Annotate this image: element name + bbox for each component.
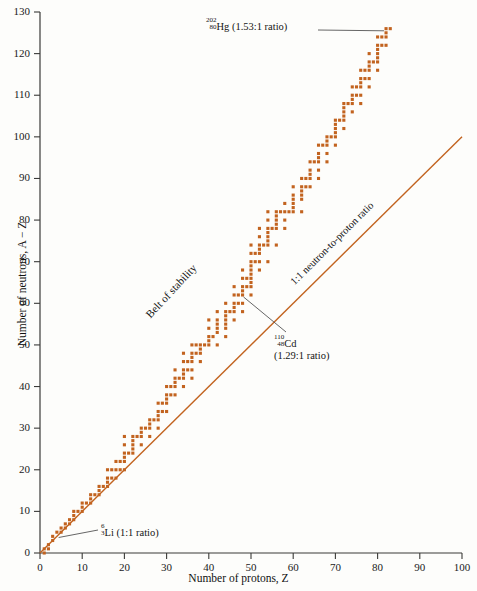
- data-point: [157, 402, 160, 405]
- data-point: [81, 506, 84, 509]
- data-point: [275, 223, 278, 226]
- data-point: [342, 114, 345, 117]
- data-point: [359, 102, 362, 105]
- data-point: [283, 210, 286, 213]
- hg-isotope-numbers: 202 80: [206, 17, 217, 31]
- data-point: [351, 102, 354, 105]
- data-point: [165, 402, 168, 405]
- data-point: [347, 102, 350, 105]
- data-point: [380, 44, 383, 47]
- data-point: [123, 452, 126, 455]
- data-point: [376, 56, 379, 59]
- data-point: [233, 293, 236, 296]
- data-point: [199, 343, 202, 346]
- data-point: [165, 397, 168, 400]
- data-point: [283, 227, 286, 230]
- annotation-cd110: 110 48 Cd (1.29:1 ratio): [274, 335, 329, 362]
- data-point: [190, 377, 193, 380]
- data-point: [93, 493, 96, 496]
- data-point: [233, 302, 236, 305]
- data-point: [372, 60, 375, 63]
- data-point: [313, 160, 316, 163]
- y-tick-label: 110: [4, 89, 30, 100]
- data-point: [355, 94, 358, 97]
- data-point: [165, 385, 168, 388]
- data-point: [309, 173, 312, 176]
- data-point: [249, 260, 252, 263]
- data-point: [173, 385, 176, 388]
- data-point: [131, 443, 134, 446]
- data-point: [216, 327, 219, 330]
- data-point: [300, 198, 303, 201]
- data-point: [114, 460, 117, 463]
- data-point: [342, 127, 345, 130]
- data-point: [43, 551, 46, 554]
- data-point: [110, 477, 113, 480]
- leader-line-cd110: [244, 297, 286, 332]
- data-point: [359, 81, 362, 84]
- data-point: [287, 210, 290, 213]
- data-point: [317, 169, 320, 172]
- data-point: [60, 526, 63, 529]
- data-point: [389, 27, 392, 30]
- data-point: [309, 169, 312, 172]
- x-axis-title: Number of protons, Z: [0, 572, 477, 584]
- data-point: [283, 219, 286, 222]
- data-point: [72, 518, 75, 521]
- data-point: [368, 52, 371, 55]
- data-point: [376, 69, 379, 72]
- data-point: [300, 189, 303, 192]
- data-point: [317, 156, 320, 159]
- data-point: [157, 427, 160, 430]
- data-point: [351, 85, 354, 88]
- data-point: [376, 44, 379, 47]
- data-point: [233, 306, 236, 309]
- data-point: [304, 177, 307, 180]
- data-point: [292, 185, 295, 188]
- data-point: [376, 60, 379, 63]
- data-point: [368, 77, 371, 80]
- data-point: [279, 210, 282, 213]
- data-point: [157, 418, 160, 421]
- data-point: [182, 360, 185, 363]
- data-point: [266, 260, 269, 263]
- data-point: [309, 177, 312, 180]
- data-point: [195, 343, 198, 346]
- data-point: [292, 194, 295, 197]
- data-point: [384, 31, 387, 34]
- data-point: [292, 206, 295, 209]
- data-point: [207, 318, 210, 321]
- data-point: [368, 60, 371, 63]
- data-point: [368, 69, 371, 72]
- data-point: [241, 285, 244, 288]
- data-point: [64, 526, 67, 529]
- data-point: [368, 65, 371, 68]
- data-point: [254, 260, 257, 263]
- data-point: [317, 152, 320, 155]
- nuclide-stability-chart: 0102030405060708090100110120130 01020304…: [0, 0, 477, 591]
- data-point: [292, 198, 295, 201]
- data-point: [119, 460, 122, 463]
- data-point: [249, 293, 252, 296]
- data-point: [72, 510, 75, 513]
- data-point: [237, 293, 240, 296]
- data-point: [224, 314, 227, 317]
- data-point: [254, 252, 257, 255]
- data-point: [338, 119, 341, 122]
- data-point: [304, 185, 307, 188]
- data-point: [275, 227, 278, 230]
- data-point: [275, 210, 278, 213]
- data-point: [266, 210, 269, 213]
- data-point: [342, 110, 345, 113]
- data-point: [131, 439, 134, 442]
- data-point: [233, 285, 236, 288]
- annotation-hg202: 202 80 Hg (1.53:1 ratio): [206, 18, 287, 33]
- data-point: [85, 502, 88, 505]
- data-point: [271, 227, 274, 230]
- data-point: [98, 493, 101, 496]
- data-point: [152, 418, 155, 421]
- data-point: [144, 427, 147, 430]
- data-point: [55, 531, 58, 534]
- data-point: [216, 331, 219, 334]
- data-point: [131, 447, 134, 450]
